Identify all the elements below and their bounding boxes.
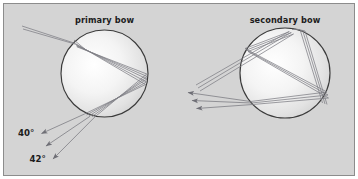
angle-label-42: 42° xyxy=(30,154,46,164)
rainbow-ray-diagram: 40° 42° primary bow xyxy=(0,0,358,179)
secondary-bow-title: secondary bow xyxy=(250,15,321,25)
primary-bow-title: primary bow xyxy=(75,15,134,25)
angle-label-40: 40° xyxy=(18,128,34,138)
diagram-canvas: 40° 42° primary bow xyxy=(0,0,358,179)
